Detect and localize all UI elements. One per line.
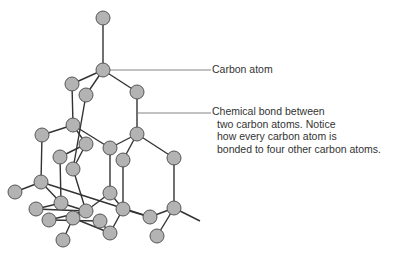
carbon-atom [103, 226, 117, 240]
carbon-atom [79, 137, 93, 151]
carbon-atom [79, 204, 93, 218]
carbon-atom-label: Carbon atom [212, 63, 273, 76]
bond-label-line-4: bonded to four other carbon atoms. [212, 143, 381, 156]
carbon-atom [130, 127, 144, 141]
carbon-atom [116, 202, 130, 216]
bond-label-line-3: how every carbon atom is [212, 130, 381, 143]
carbon-atom [56, 233, 70, 247]
carbon-atom [54, 196, 68, 210]
carbon-atoms [8, 11, 181, 247]
carbon-atom [167, 201, 181, 215]
label-leader-lines [110, 70, 211, 113]
carbon-atom [34, 175, 48, 189]
bond-label-line-1: Chemical bond between [212, 105, 381, 118]
carbon-atom [116, 153, 130, 167]
carbon-atom [143, 210, 157, 224]
carbon-atom [29, 202, 43, 216]
carbon-atom [66, 211, 80, 225]
carbon-atom [53, 150, 67, 164]
carbon-atom [103, 186, 117, 200]
carbon-atom [167, 151, 181, 165]
carbon-atom [35, 128, 49, 142]
carbon-atom-label-text: Carbon atom [212, 63, 273, 75]
chemical-bond-label: Chemical bond between two carbon atoms. … [212, 105, 381, 155]
carbon-atom [8, 185, 22, 199]
carbon-atom [42, 213, 56, 227]
carbon-atom [150, 229, 164, 243]
carbon-atom [103, 141, 117, 155]
bond-label-line-2: two carbon atoms. Notice [212, 118, 381, 131]
carbon-atom [93, 214, 107, 228]
carbon-atom [130, 85, 144, 99]
carbon-atom [96, 11, 110, 25]
carbon-atom [79, 88, 93, 102]
carbon-atom [65, 77, 79, 91]
carbon-atom [96, 63, 110, 77]
carbon-atom [66, 162, 80, 176]
carbon-atom [66, 118, 80, 132]
